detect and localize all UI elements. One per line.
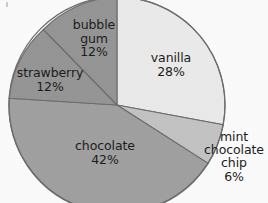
pie-slice-vanilla — [117, 0, 225, 125]
scan-artifact-speck — [6, 2, 8, 7]
pie-chart-graphic — [0, 0, 268, 203]
pie-chart: vanilla 28% mint chocolate chip 6% choco… — [0, 0, 268, 203]
